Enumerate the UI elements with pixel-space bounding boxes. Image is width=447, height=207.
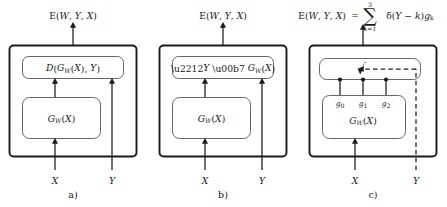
- panel-b-input-y-label: Y: [259, 175, 266, 186]
- panel-c-input-y-label: Y: [413, 175, 420, 186]
- panel-a-output-label: E(W, Y, X): [49, 10, 97, 21]
- panel-c-sum-lower: k=1: [364, 25, 377, 32]
- panel-a-caption: a): [68, 189, 77, 200]
- panel-c-input-x-label: X: [351, 175, 359, 186]
- panel-a-top-module-label: D(GW(X), Y): [45, 62, 100, 73]
- panel-c-formula-equals: =: [351, 10, 359, 21]
- energy-model-architectures-figure: E(W, Y, X) D(GW(X), Y) GW(X) X Y a) E(W,…: [0, 0, 447, 207]
- panel-c-caption: c): [368, 189, 377, 200]
- panel-c-formula-lhs: E(W, Y, X): [298, 10, 346, 21]
- panel-a-bottom-module-label: GW(X): [48, 113, 75, 124]
- panel-b-input-x-label: X: [201, 175, 209, 186]
- panel-a-input-x-label: X: [51, 175, 59, 186]
- panel-a-input-y-label: Y: [109, 175, 116, 186]
- panel-c-summand: δ(Y − k)gk: [386, 10, 434, 21]
- panel-b-output-label: E(W, Y, X): [199, 10, 247, 21]
- panel-b-caption: b): [218, 189, 228, 200]
- panel-c-bottom-module-label: GW(X): [349, 115, 376, 126]
- panel-c-sum-upper: 3: [368, 1, 372, 8]
- panel-b-bottom-module-label: GW(X): [198, 113, 225, 124]
